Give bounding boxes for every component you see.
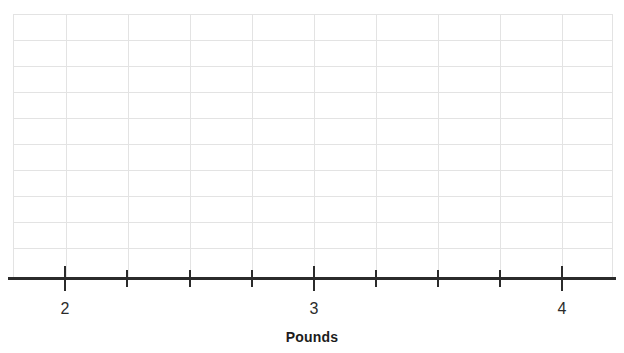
grid-line-horizontal: [13, 66, 613, 67]
grid-line-vertical: [66, 14, 67, 278]
x-axis-tick-label: 2: [45, 299, 85, 319]
x-axis-tick-minor: [499, 270, 501, 287]
x-axis-tick-minor: [126, 270, 128, 287]
grid-line-vertical: [314, 14, 315, 278]
x-axis-line: [8, 277, 616, 280]
x-axis-tick-minor: [375, 270, 377, 287]
grid-line-vertical: [500, 14, 501, 278]
grid-line-horizontal: [13, 40, 613, 41]
grid-line-horizontal: [13, 92, 613, 93]
grid-line-horizontal: [13, 196, 613, 197]
grid-line-horizontal: [13, 118, 613, 119]
grid-line-horizontal: [13, 170, 613, 171]
grid-line-horizontal: [13, 14, 613, 15]
grid-line-vertical: [376, 14, 377, 278]
grid-line-vertical: [612, 14, 613, 278]
x-axis-title: Pounds: [0, 329, 624, 345]
grid-line-horizontal: [13, 144, 613, 145]
x-axis-tick-major: [64, 266, 66, 291]
grid-line-horizontal: [13, 222, 613, 223]
chart-canvas: 234 Pounds: [0, 0, 624, 353]
grid-line-vertical: [13, 14, 14, 278]
grid-line-vertical: [190, 14, 191, 278]
x-axis-tick-minor: [189, 270, 191, 287]
grid-line-vertical: [438, 14, 439, 278]
x-axis-tick-major: [313, 266, 315, 291]
grid-line-vertical: [128, 14, 129, 278]
x-axis-tick-label: 4: [542, 299, 582, 319]
x-axis-tick-major: [561, 266, 563, 291]
grid-line-vertical: [562, 14, 563, 278]
grid-line-horizontal: [13, 248, 613, 249]
x-axis-tick-minor: [251, 270, 253, 287]
x-axis-tick-minor: [437, 270, 439, 287]
grid-line-vertical: [252, 14, 253, 278]
plot-grid-area: [13, 14, 613, 278]
x-axis-tick-label: 3: [294, 299, 334, 319]
